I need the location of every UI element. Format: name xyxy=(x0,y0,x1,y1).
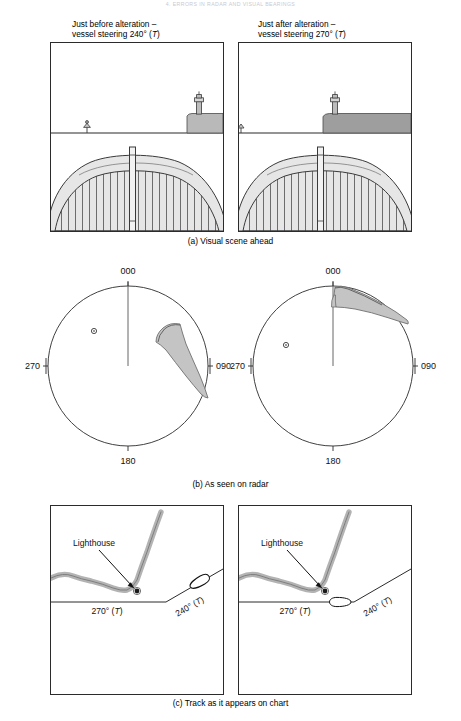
coastline-echo xyxy=(334,286,409,324)
caption-a: (a) Visual scene ahead xyxy=(0,236,461,246)
buoy-echo-core xyxy=(285,344,287,346)
track-label-240: 240° (T) xyxy=(362,594,394,618)
chart-track-box-left: Lighthouse 270° (T) 240° (T) xyxy=(50,505,224,695)
lighthouse-label: Lighthouse xyxy=(261,538,303,548)
caption-b: (b) As seen on radar xyxy=(0,479,461,489)
radar-label-000: 000 xyxy=(325,266,340,276)
own-ship-foredeck xyxy=(239,155,411,231)
visual-scene-right-svg xyxy=(239,43,411,231)
caption-c: (c) Track as it appears on chart xyxy=(0,698,461,708)
coastline-band xyxy=(51,512,161,590)
radar-label-270: 270 xyxy=(230,361,245,371)
radar-label-180: 180 xyxy=(120,456,135,466)
running-head: 4. ERRORS IN RADAR AND VISUAL BEARINGS xyxy=(0,1,461,7)
chart-track-box-right: Lighthouse 270° (T) 240° (T) xyxy=(238,505,412,695)
radar-label-270: 270 xyxy=(25,361,40,371)
mast xyxy=(318,147,324,231)
visual-scene-box-right xyxy=(238,42,412,232)
panel-title-right-line1: Just after alteration – xyxy=(258,19,346,29)
radar-left-svg: 000 090 180 270 xyxy=(20,252,236,480)
radar-display-left: 000 090 180 270 xyxy=(20,252,236,480)
buoy-echo-core xyxy=(93,330,95,332)
radar-label-180: 180 xyxy=(325,456,340,466)
panel-title-right: Just after alteration – vessel steering … xyxy=(258,19,346,40)
radar-label-090: 090 xyxy=(421,361,436,371)
buoy-symbol xyxy=(239,124,244,133)
lighthouse-chart-symbol xyxy=(133,587,140,594)
coastline-echo xyxy=(156,324,208,399)
radar-display-right: 000 090 180 270 xyxy=(225,252,441,480)
panel-title-left-line2: vessel steering 240° (T) xyxy=(72,29,160,39)
lighthouse-label: Lighthouse xyxy=(73,538,115,548)
coastline-echo-spur xyxy=(331,295,336,307)
visual-scene-left-svg xyxy=(51,43,223,231)
track-label-270: 270° (T) xyxy=(91,606,122,616)
lighthouse-symbol xyxy=(195,91,204,114)
figure-root: 4. ERRORS IN RADAR AND VISUAL BEARINGS J… xyxy=(0,0,461,721)
coastline-band xyxy=(239,512,349,590)
radar-right-svg: 000 090 180 270 xyxy=(225,252,441,480)
mast xyxy=(130,147,136,231)
lighthouse-symbol xyxy=(331,91,340,114)
headland-silhouette xyxy=(187,114,223,134)
vessel-symbol xyxy=(330,597,352,606)
radar-label-000: 000 xyxy=(120,266,135,276)
visual-scene-box-left xyxy=(50,42,224,232)
panel-title-left-line1: Just before alteration – xyxy=(72,19,160,29)
buoy-symbol xyxy=(84,121,91,134)
panel-title-left: Just before alteration – vessel steering… xyxy=(72,19,160,40)
track-label-240: 240° (T) xyxy=(174,594,206,618)
panel-title-right-line2: vessel steering 270° (T) xyxy=(258,29,346,39)
track-label-270: 270° (T) xyxy=(279,606,310,616)
headland-silhouette xyxy=(323,114,411,134)
vessel-symbol xyxy=(188,572,211,591)
lighthouse-chart-symbol xyxy=(321,587,328,594)
own-ship-foredeck xyxy=(51,155,223,231)
chart-right-svg: Lighthouse 270° (T) 240° (T) xyxy=(239,506,411,694)
chart-left-svg: Lighthouse 270° (T) 240° (T) xyxy=(51,506,223,694)
